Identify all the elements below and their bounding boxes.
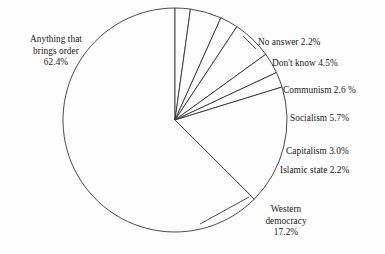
slice-label-line-1: Anything that (2, 34, 110, 46)
slice-label-text: No answer 2.2% (258, 37, 320, 49)
slice-label-line-2: democracy (243, 216, 329, 228)
slice-label-capitalism: Capitalism 3.0% (286, 146, 349, 158)
slice-label-anything-brings-order: Anything that brings order 62.4% (2, 34, 110, 69)
slice-label-no-answer: No answer 2.2% (258, 37, 320, 49)
slice-label-line-3: 62.4% (2, 57, 110, 69)
slice-label-text: Capitalism 3.0% (286, 146, 349, 158)
slice-label-socialism: Socialism 5.7% (290, 113, 349, 125)
slice-label-line-1: Western (243, 204, 329, 216)
slice-label-communism: Communism 2.6 % (283, 85, 356, 97)
slice-label-text: Don't know 4.5% (272, 58, 338, 70)
slice-label-text: Communism 2.6 % (283, 85, 356, 97)
slice-label-text: Islamic state 2.2% (280, 165, 349, 177)
slice-label-line-2: brings order (2, 46, 110, 58)
slice-label-dont-know: Don't know 4.5% (272, 58, 338, 70)
pie-chart-figure: Anything that brings order 62.4% No answ… (0, 0, 385, 254)
slice-label-western-democracy: Western democracy 17.2% (243, 204, 329, 239)
slice-label-line-3: 17.2% (243, 227, 329, 239)
slice-label-text: Socialism 5.7% (290, 113, 349, 125)
slice-label-islamic-state: Islamic state 2.2% (280, 165, 349, 177)
